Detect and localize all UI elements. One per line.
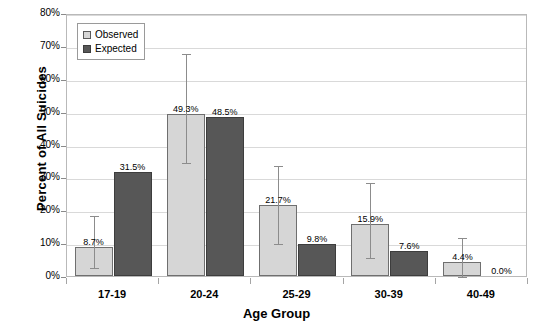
x-axis-tick-mark [66, 278, 67, 284]
x-axis-category-label: 30-39 [343, 288, 435, 300]
y-axis-tick-label: 20% [16, 204, 60, 215]
y-axis-tick-label: 60% [16, 73, 60, 84]
bar-chart: Percent of All Suicides 0%10%20%30%40%50… [0, 0, 553, 331]
legend-label-observed: Observed [95, 29, 138, 40]
error-bar-cap-lower [366, 258, 375, 259]
x-axis-tick-mark [158, 278, 159, 284]
x-axis-tick-mark [343, 278, 344, 284]
legend-item-expected: Expected [83, 42, 138, 55]
legend-swatch-observed-icon [83, 31, 91, 39]
bar-expected [390, 251, 428, 276]
y-axis-tick-label: 70% [16, 40, 60, 51]
y-axis-tick-label: 0% [16, 270, 60, 281]
gridline [67, 114, 526, 115]
gridline [67, 81, 526, 82]
x-axis-tick-mark [527, 278, 528, 284]
legend-label-expected: Expected [95, 43, 137, 54]
legend: Observed Expected [77, 23, 145, 60]
x-axis-title: Age Group [0, 306, 553, 321]
x-axis-tick-mark [250, 278, 251, 284]
error-bar-cap-upper [458, 238, 467, 239]
data-label-observed: 8.7% [69, 237, 119, 247]
x-axis-category-label: 40-49 [435, 288, 527, 300]
data-label-expected: 0.0% [476, 266, 526, 276]
data-label-observed: 15.9% [345, 214, 395, 224]
error-bar-cap-upper [182, 54, 191, 55]
x-axis-tick-mark [435, 278, 436, 284]
data-label-observed: 4.4% [437, 252, 487, 262]
error-bar-cap-lower [458, 277, 467, 278]
data-label-observed: 21.7% [253, 195, 303, 205]
data-label-expected: 7.6% [384, 241, 434, 251]
data-label-expected: 9.8% [292, 234, 342, 244]
bar-expected [298, 244, 336, 276]
error-bar-cap-lower [90, 268, 99, 269]
error-bar-cap-lower [182, 163, 191, 164]
legend-item-observed: Observed [83, 28, 138, 41]
gridline [67, 15, 526, 16]
legend-swatch-expected-icon [83, 45, 91, 53]
x-axis-category-label: 17-19 [66, 288, 158, 300]
plot-area: 8.7%31.5%49.3%48.5%21.7%9.8%15.9%7.6%4.4… [66, 14, 527, 277]
gridline [67, 147, 526, 148]
bar-expected [114, 172, 152, 276]
data-label-expected: 31.5% [108, 162, 158, 172]
x-axis-category-label: 25-29 [251, 288, 343, 300]
y-axis-tick-label: 80% [16, 7, 60, 18]
error-bar-line [278, 166, 279, 244]
bar-expected [206, 117, 244, 276]
data-label-expected: 48.5% [200, 107, 250, 117]
error-bar-cap-upper [366, 183, 375, 184]
y-axis-tick-label: 50% [16, 106, 60, 117]
error-bar-cap-upper [90, 216, 99, 217]
error-bar-cap-lower [274, 244, 283, 245]
y-axis-tick-label: 30% [16, 171, 60, 182]
x-axis-category-label: 20-24 [158, 288, 250, 300]
error-bar-cap-upper [274, 166, 283, 167]
y-axis-tick-label: 40% [16, 139, 60, 150]
y-axis-tick-label: 10% [16, 237, 60, 248]
